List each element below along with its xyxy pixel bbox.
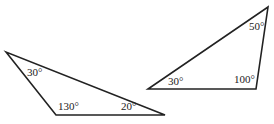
triangles-diagram: 30° 130° 20° 30° 100° 50°: [0, 0, 274, 124]
left-triangle-angle-bottom-left: 130°: [58, 100, 79, 112]
left-triangle: [6, 52, 165, 115]
left-triangle-angle-right: 20°: [121, 100, 136, 112]
right-triangle-angle-top: 50°: [249, 20, 264, 32]
left-triangle-angle-top: 30°: [27, 66, 42, 78]
right-triangle-angle-bottom-right: 100°: [234, 73, 255, 85]
right-triangle-angle-left: 30°: [168, 75, 183, 87]
